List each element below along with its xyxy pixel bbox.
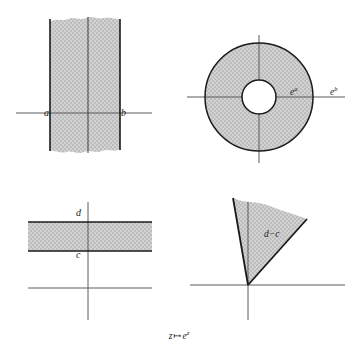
label-b: b (121, 108, 126, 118)
label-c: c (76, 250, 80, 260)
label-e-to-the-b: eb (330, 88, 337, 98)
label-d: d (76, 208, 81, 218)
horizontal-strip-shading (28, 222, 152, 251)
panel-vertical-strip (16, 17, 152, 153)
label-e-to-the-a: ea (290, 88, 297, 98)
panel-sector (190, 198, 345, 320)
panel-horizontal-strip (28, 202, 152, 320)
vertical-strip-shading (50, 17, 120, 153)
figure-canvas (0, 0, 358, 350)
caption-image-exponent: z (187, 329, 190, 336)
label-d-minus-c: d−c (264, 230, 279, 240)
exponential-map-figure: a b ea eb d c d−c z↦ez (0, 0, 358, 350)
mapsto-icon: ↦ (172, 331, 182, 341)
label-e-to-the-b-exponent: b (334, 85, 337, 92)
label-a: a (44, 108, 49, 118)
panel-annulus (187, 35, 345, 163)
figure-caption: z↦ez (0, 330, 358, 341)
label-e-to-the-a-exponent: a (294, 85, 297, 92)
annulus-inner-circle (242, 80, 276, 114)
sector-shading (233, 198, 307, 285)
